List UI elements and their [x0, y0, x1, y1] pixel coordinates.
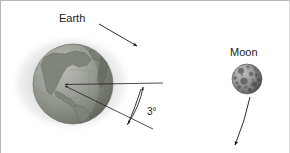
- earth-moon-diagram: 3° Earth Moon: [1, 1, 290, 153]
- angle-label: 3°: [147, 106, 157, 117]
- diagram-canvas: 3° Earth Moon: [0, 0, 290, 153]
- moon-label: Moon: [230, 46, 258, 58]
- moon-motion-arrow: [235, 97, 250, 145]
- earth-label: Earth: [59, 12, 85, 24]
- moon-globe: [232, 60, 262, 94]
